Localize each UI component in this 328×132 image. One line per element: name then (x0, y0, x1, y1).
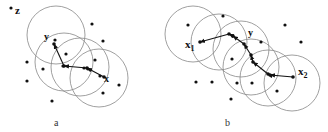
caption-a: a (54, 117, 59, 128)
data-point (101, 39, 104, 42)
data-point (41, 67, 44, 70)
data-point (283, 23, 286, 26)
data-point (259, 40, 262, 43)
data-point (93, 58, 96, 61)
path-node (198, 40, 202, 44)
path-node (249, 53, 253, 57)
panel-a: z y x a (9, 4, 128, 128)
path-node (268, 73, 272, 77)
caption-b: b (225, 117, 230, 128)
data-point (64, 52, 67, 55)
path-node (227, 32, 231, 36)
data-point (221, 14, 224, 17)
shift-arrow (244, 44, 251, 55)
data-point (210, 80, 213, 83)
data-points (186, 14, 302, 100)
data-point (275, 89, 278, 92)
path-node (231, 34, 235, 38)
shift-arrow (270, 75, 293, 77)
label-z: z (15, 4, 20, 16)
panel-b: x1 y x2 b (165, 6, 320, 128)
data-point (299, 40, 302, 43)
path-node (242, 42, 246, 46)
data-point (25, 60, 28, 63)
neighborhood-circles (165, 6, 320, 111)
data-point (229, 97, 232, 100)
data-point (61, 64, 64, 67)
neighborhood-circle (70, 49, 128, 107)
path-node (52, 42, 56, 46)
label-x1: x1 (185, 38, 195, 53)
data-point (186, 23, 189, 26)
data-point (117, 83, 120, 86)
data-point (98, 74, 101, 77)
data-point (9, 6, 12, 9)
path-node (291, 75, 295, 79)
data-point (250, 81, 253, 84)
data-point (50, 99, 53, 102)
label-x2: x2 (298, 65, 308, 80)
diagram-canvas: z y x a x1 y x2 b (0, 0, 328, 132)
data-point (53, 38, 56, 41)
data-point (101, 91, 104, 94)
data-point (90, 22, 93, 25)
shift-arrow (253, 62, 268, 74)
neighborhood-circles (27, 6, 128, 107)
data-point (230, 57, 233, 60)
label-x: x (104, 73, 109, 84)
data-point (82, 66, 85, 69)
path-node (251, 60, 255, 64)
data-points (9, 6, 120, 102)
label-y: y (248, 27, 253, 38)
mean-shift-path (52, 42, 106, 79)
data-point (86, 67, 89, 70)
label-y: y (44, 31, 49, 42)
data-point (194, 80, 197, 83)
data-point (235, 81, 238, 84)
data-point (25, 79, 28, 82)
